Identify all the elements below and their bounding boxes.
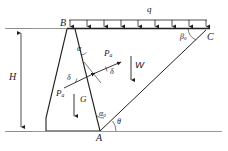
dimension-label-h: H <box>9 72 16 82</box>
angle-label-delta-lower: δ <box>67 74 71 82</box>
force-label-pa-lower: Pa <box>56 89 64 99</box>
force-label-g: G <box>80 95 87 104</box>
retaining-wall-body <box>46 29 100 131</box>
retaining-wall-diagram: B A C q H Pa Pa W G α δ δ α0 θ β0 <box>0 0 228 151</box>
point-label-b: B <box>60 18 66 28</box>
angle-arcs <box>75 29 196 131</box>
force-label-pa-lower-sub: a <box>62 92 65 98</box>
angle-label-alpha: α <box>77 45 81 53</box>
force-label-pa-upper-sub: a <box>110 52 113 58</box>
force-label-pa-upper: Pa <box>104 49 112 59</box>
failure-plane-ac <box>100 30 206 131</box>
pressure-point-reference-line <box>84 62 101 83</box>
surcharge-load-arrows <box>70 20 206 27</box>
point-label-a: A <box>96 133 102 143</box>
angle-label-delta-upper: δ <box>110 68 114 76</box>
surcharge-label-q: q <box>147 5 152 14</box>
angle-label-theta: θ <box>117 118 121 126</box>
force-label-w: W <box>135 60 144 70</box>
angle-label-beta-zero-sub: 0 <box>184 36 186 41</box>
angle-label-alpha-zero: α0 <box>99 110 106 119</box>
point-label-c: C <box>207 32 214 42</box>
angle-label-alpha-zero-sub: 0 <box>103 113 105 118</box>
force-vector-pa-upper <box>93 62 121 74</box>
diagram-canvas <box>0 0 228 151</box>
angle-label-beta-zero: β0 <box>180 33 186 42</box>
